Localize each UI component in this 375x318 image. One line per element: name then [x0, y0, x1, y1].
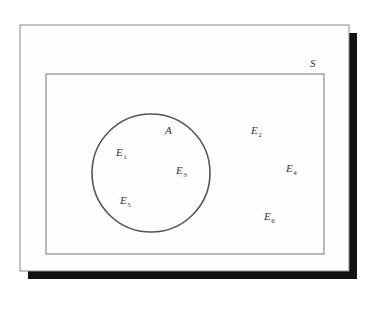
diagram-frame: [20, 25, 349, 271]
event-a-label: A: [164, 124, 172, 136]
sample-space-label: S: [310, 57, 316, 69]
venn-diagram: S A E1E2E3E4E5E6: [0, 0, 375, 318]
